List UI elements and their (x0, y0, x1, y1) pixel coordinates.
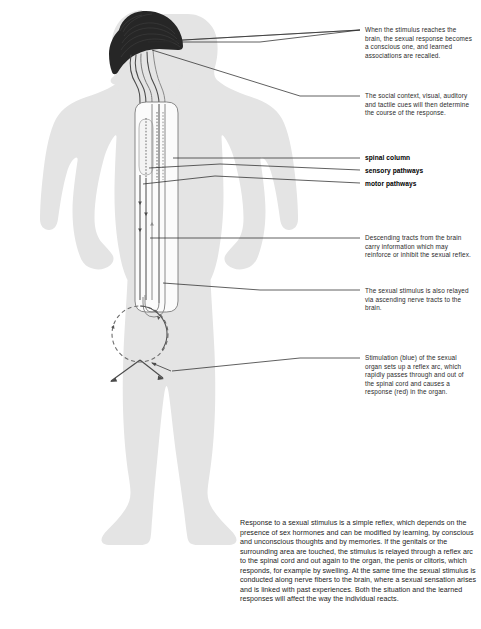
label-motor-pathways: motor pathways (365, 180, 417, 187)
annotation-brain-conscious: When the stimulus reaches the brain, the… (365, 26, 473, 60)
annotation-social-context: The social context, visual, auditory and… (365, 92, 473, 118)
spinal-column (135, 102, 178, 312)
figure-caption: Response to a sexual stimulus is a simpl… (240, 519, 478, 605)
annotation-stimulation-reflex-arc: Stimulation (blue) of the sexual organ s… (365, 354, 473, 397)
label-spinal-column: spinal column (365, 154, 410, 161)
annotation-descending-tracts: Descending tracts from the brain carry i… (365, 234, 473, 260)
annotation-ascending-tracts: The sexual stimulus is also relayed via … (365, 287, 473, 313)
label-sensory-pathways: sensory pathways (365, 167, 423, 174)
